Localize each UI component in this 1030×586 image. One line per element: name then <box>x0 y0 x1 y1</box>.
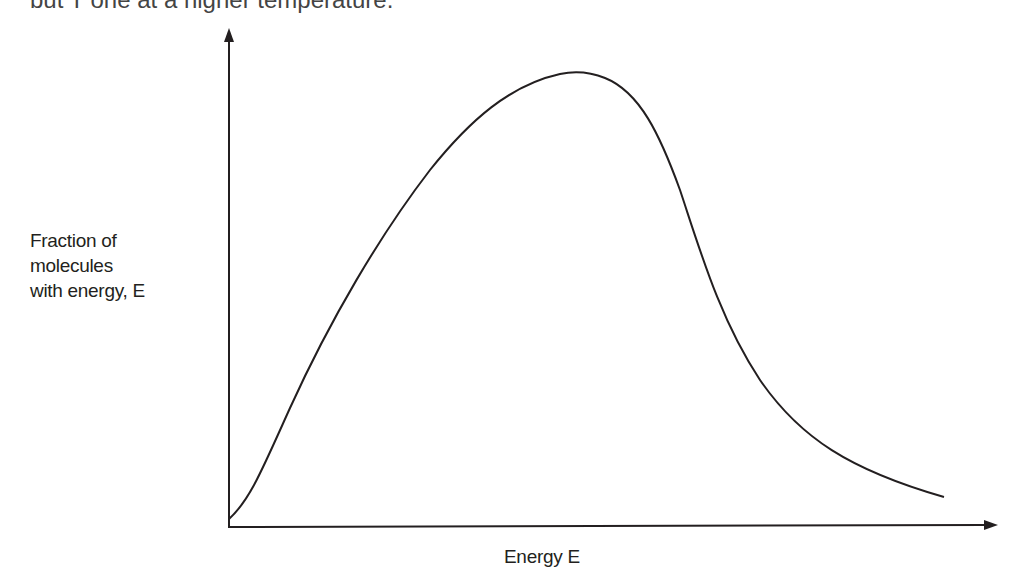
y-axis-label-line: molecules <box>30 253 145 278</box>
distribution-chart <box>0 0 1030 586</box>
y-axis-label-line: Fraction of <box>30 228 145 253</box>
distribution-curve <box>229 72 944 519</box>
y-axis-arrow-icon <box>224 28 234 42</box>
y-axis-label: Fraction of molecules with energy, E <box>30 228 145 303</box>
x-axis-arrow-icon <box>984 520 998 530</box>
y-axis-label-line: with energy, E <box>30 278 145 303</box>
x-axis <box>229 525 986 527</box>
x-axis-label: Energy E <box>504 546 580 568</box>
